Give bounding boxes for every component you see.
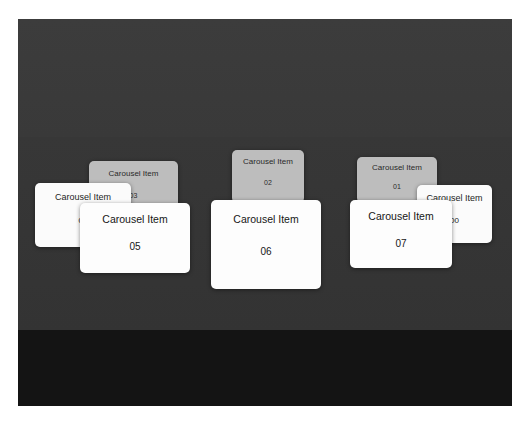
carousel-card-title: Carousel Item — [243, 158, 293, 167]
carousel-card-02[interactable]: Carousel Item02 — [232, 150, 304, 203]
carousel-card-title: Carousel Item — [368, 211, 433, 223]
carousel-card-index: 06 — [260, 246, 271, 257]
carousel-card-index: 05 — [129, 241, 140, 252]
carousel-card-title: Carousel Item — [102, 214, 167, 226]
carousel-card-title: Carousel Item — [233, 214, 298, 226]
carousel-card-05[interactable]: Carousel Item05 — [80, 203, 190, 273]
carousel-card-index: 01 — [393, 183, 401, 191]
carousel-card-title: Carousel Item — [109, 170, 159, 179]
screen: Carousel Item03Carousel Item04Carousel I… — [0, 0, 531, 422]
carousel-card-index: 02 — [264, 179, 272, 187]
carousel-card-07[interactable]: Carousel Item07 — [350, 200, 452, 268]
carousel-card-index: 07 — [395, 238, 406, 249]
carousel-stage[interactable]: Carousel Item03Carousel Item04Carousel I… — [18, 19, 512, 406]
carousel-card-title: Carousel Item — [55, 193, 111, 203]
carousel-card-06[interactable]: Carousel Item06 — [211, 200, 321, 289]
carousel-viewport: Carousel Item03Carousel Item04Carousel I… — [18, 19, 512, 406]
carousel-card-title: Carousel Item — [372, 164, 422, 173]
